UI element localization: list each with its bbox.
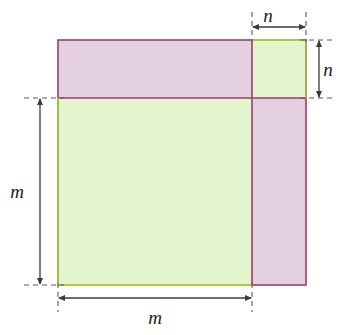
geometry-figure: n n m m [0,0,344,335]
dimension-label-m-left: m [10,182,24,201]
green-square-fill-main [58,98,252,285]
figure-canvas [0,0,344,335]
dimension-label-n-right: n [323,60,333,79]
dimension-label-n-top: n [263,6,273,25]
dimension-label-m-bottom: m [148,308,162,327]
green-square-fill-corner [252,40,306,98]
